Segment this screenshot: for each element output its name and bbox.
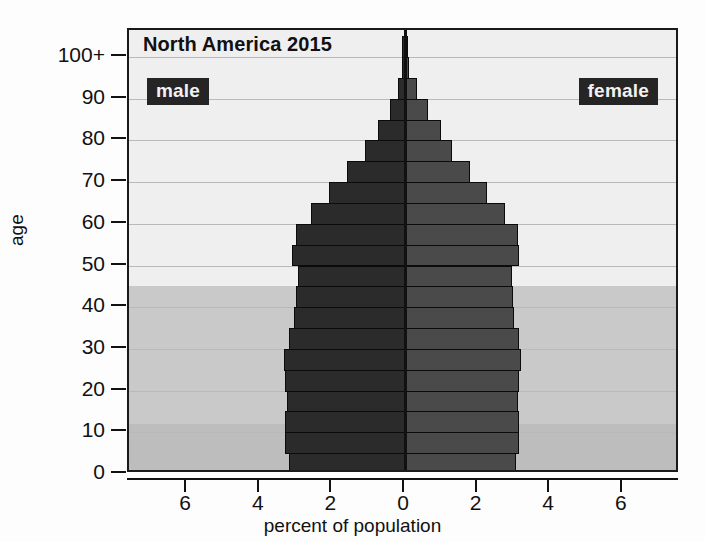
bar-female-10-14: [405, 411, 519, 433]
legend-female-label: female: [579, 78, 658, 105]
bar-male-60-64: [311, 203, 405, 225]
bar-male-15-19: [287, 391, 405, 413]
bar-female-85-89: [405, 99, 428, 121]
y-tick-mark-70: [111, 179, 126, 181]
bar-male-30-34: [289, 328, 405, 350]
bar-male-70-74: [347, 161, 405, 183]
bar-female-75-79: [405, 140, 452, 162]
y-tick-label-40: 40: [31, 294, 105, 315]
bar-male-35-39: [294, 307, 405, 329]
y-tick-mark-60: [111, 221, 126, 223]
y-tick-mark-10: [111, 429, 126, 431]
x-tick-label-0: 6: [165, 492, 205, 514]
y-tick-mark-0: [111, 471, 126, 473]
y-tick-mark-50: [111, 263, 126, 265]
bar-female-25-29: [405, 349, 521, 371]
bar-male-50-54: [292, 245, 405, 267]
y-tick-label-80: 80: [31, 127, 105, 148]
bar-female-80-84: [405, 120, 441, 142]
x-tick-label-2: 2: [310, 492, 350, 514]
y-tick-mark-100+: [111, 54, 126, 56]
y-tick-label-70: 70: [31, 169, 105, 190]
bar-male-65-69: [329, 182, 405, 204]
bar-female-15-19: [405, 391, 518, 413]
y-tick-label-60: 60: [31, 211, 105, 232]
y-tick-mark-40: [111, 304, 126, 306]
population-pyramid-figure: male female North America 2015 010203040…: [0, 0, 705, 541]
bar-male-45-49: [298, 266, 405, 288]
y-tick-mark-80: [111, 137, 126, 139]
bar-female-35-39: [405, 307, 514, 329]
bar-male-80-84: [378, 120, 405, 142]
bar-male-40-44: [296, 286, 405, 308]
chart-title: North America 2015: [143, 33, 332, 56]
bar-male-55-59: [296, 224, 405, 246]
y-tick-label-10: 10: [31, 419, 105, 440]
bar-male-5-9: [285, 432, 405, 454]
bar-female-0-4: [405, 453, 516, 472]
plot-area: male female North America 2015: [127, 28, 678, 472]
bar-male-25-29: [284, 349, 405, 371]
bar-female-45-49: [405, 266, 512, 288]
bar-female-65-69: [405, 182, 487, 204]
bar-female-40-44: [405, 286, 513, 308]
y-tick-label-30: 30: [31, 336, 105, 357]
legend-male-label: male: [147, 78, 209, 105]
zero-axis-line: [404, 30, 407, 470]
bar-female-50-54: [405, 245, 519, 267]
x-tick-label-6: 6: [601, 492, 641, 514]
y-tick-label-20: 20: [31, 378, 105, 399]
y-tick-mark-30: [111, 346, 126, 348]
y-tick-label-50: 50: [31, 253, 105, 274]
y-tick-label-100+: 100+: [31, 44, 105, 65]
bar-male-75-79: [365, 140, 405, 162]
bar-male-20-24: [285, 370, 405, 392]
bar-female-70-74: [405, 161, 470, 183]
bar-female-30-34: [405, 328, 519, 350]
bar-female-20-24: [405, 370, 519, 392]
bar-male-0-4: [289, 453, 405, 472]
bar-female-5-9: [405, 432, 519, 454]
bar-male-85-89: [390, 99, 405, 121]
x-axis-title: percent of population: [0, 515, 705, 537]
y-tick-label-90: 90: [31, 86, 105, 107]
x-tick-label-4: 2: [456, 492, 496, 514]
x-tick-label-5: 4: [528, 492, 568, 514]
y-tick-mark-90: [111, 96, 126, 98]
bar-female-60-64: [405, 203, 505, 225]
bar-male-10-14: [285, 411, 405, 433]
bar-female-55-59: [405, 224, 518, 246]
y-tick-mark-20: [111, 388, 126, 390]
x-tick-label-3: 0: [383, 492, 423, 514]
x-tick-label-1: 4: [238, 492, 278, 514]
y-axis-title: age: [6, 214, 28, 246]
y-tick-label-0: 0: [31, 461, 105, 482]
